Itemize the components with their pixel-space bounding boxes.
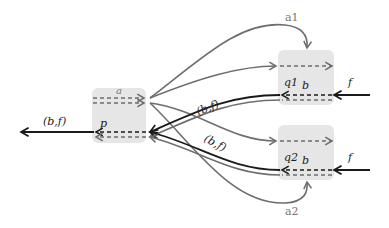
label-node-q2: q2 xyxy=(284,151,298,164)
label-channel-a: a xyxy=(116,85,122,96)
label-input-q2-f: f xyxy=(347,151,354,164)
label-node-p: p xyxy=(100,117,107,130)
label-input-q1-f: f xyxy=(347,76,354,89)
label-node-q1: q1 xyxy=(284,76,298,89)
label-cross-upper-bf: (b,f) xyxy=(194,97,220,118)
label-q1-channel-b: b xyxy=(302,79,309,92)
label-q2-channel-b: b xyxy=(302,154,309,167)
label-output-bf: (b,f) xyxy=(43,115,66,128)
diagram-canvas: (b,f) p a q1 b q2 b f f (b,f) (b,f) a1 a… xyxy=(0,0,389,228)
process-box-p xyxy=(92,88,146,143)
label-cross-lower-bf: (b,f) xyxy=(202,132,229,154)
label-a2: a2 xyxy=(285,205,299,218)
label-a1: a1 xyxy=(285,11,299,24)
edge-p-to-q1-a xyxy=(150,66,276,98)
